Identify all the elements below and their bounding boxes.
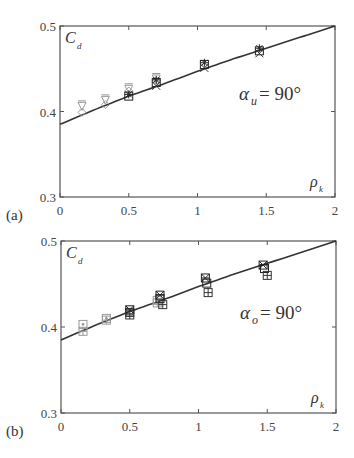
x-tick-label: 2 (333, 419, 340, 434)
chart-panel-b: 00.511.520.30.40.5Cdρkαo= 90°(b) (6, 234, 339, 440)
x-tick-label: 0 (57, 203, 64, 218)
svg-text:k: k (319, 184, 324, 194)
model-curve (61, 241, 336, 340)
x-tick-label: 1.5 (259, 419, 275, 434)
svg-text:d: d (77, 41, 82, 51)
angle-annotation: α (240, 302, 251, 323)
y-tick-label: 0.5 (41, 234, 57, 249)
series-gray-square-dot (79, 296, 161, 328)
angle-annotation: α (239, 83, 250, 104)
x-tick-label: 1.5 (258, 203, 274, 218)
x-tick-label: 0 (58, 419, 65, 434)
svg-text:u: u (251, 94, 257, 108)
x-tick-label: 1 (195, 419, 202, 434)
x-tick-label: 0.5 (121, 203, 137, 218)
series-gray-diamond (78, 77, 160, 117)
svg-text:= 90°: = 90° (259, 83, 301, 104)
y-tick-label: 0.5 (40, 19, 56, 34)
drag-coefficient-chart: 00.511.520.30.40.5Cdρkαu= 90°(a)00.511.5… (0, 0, 354, 458)
y-tick-label: 0.3 (41, 406, 57, 421)
svg-text:d: d (78, 256, 83, 266)
y-tick-label: 0.4 (41, 320, 58, 335)
x-axis-label: ρ (310, 389, 319, 407)
x-tick-label: 0.5 (122, 419, 138, 434)
x-tick-label: 2 (332, 203, 339, 218)
y-axis-label: C (65, 29, 76, 46)
svg-text:o: o (252, 313, 258, 327)
x-axis-label: ρ (309, 173, 318, 191)
panel-label: (b) (6, 423, 24, 440)
y-tick-label: 0.4 (40, 105, 57, 120)
series-gray-triangle (78, 74, 160, 111)
plot-frame (60, 26, 335, 197)
panel-label: (a) (6, 207, 23, 224)
svg-text:k: k (320, 400, 325, 410)
y-tick-label: 0.3 (40, 190, 56, 205)
model-curve (60, 26, 335, 124)
x-tick-label: 1 (194, 203, 201, 218)
y-axis-label: C (66, 244, 77, 261)
svg-text:= 90°: = 90° (260, 302, 302, 323)
plot-frame (61, 241, 336, 413)
chart-panel-a: 00.511.520.30.40.5Cdρkαu= 90°(a) (6, 19, 338, 224)
